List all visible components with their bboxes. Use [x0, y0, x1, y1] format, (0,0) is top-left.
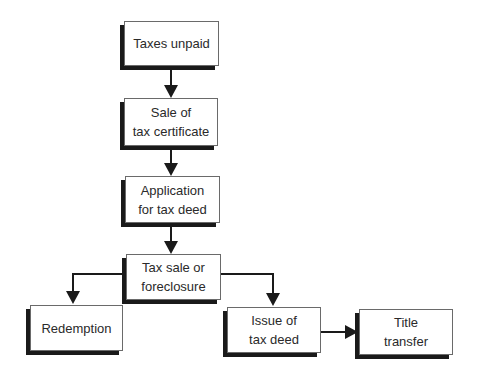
- node-sale-of-tax-certificate: Sale of tax certificate: [124, 98, 218, 146]
- node-issue-of-tax-deed: Issue of tax deed: [227, 307, 321, 353]
- arrowhead-down-icon: [66, 291, 80, 304]
- node-label: Title transfer: [384, 313, 428, 351]
- node-redemption: Redemption: [30, 305, 123, 351]
- node-label: Redemption: [41, 319, 111, 338]
- node-taxes-unpaid: Taxes unpaid: [124, 21, 219, 66]
- node-title-transfer: Title transfer: [359, 309, 453, 355]
- arrowhead-down-icon: [164, 85, 178, 98]
- arrowhead-down-icon: [164, 241, 178, 254]
- node-tax-sale-or-foreclosure: Tax sale or foreclosure: [126, 254, 221, 300]
- edge-taxsale-to-redemption: [73, 274, 126, 292]
- arrowhead-right-icon: [345, 325, 358, 339]
- edge-taxsale-to-issue: [221, 274, 273, 294]
- node-label: Sale of tax certificate: [133, 103, 210, 141]
- arrowhead-down-icon: [266, 293, 280, 306]
- node-label: Taxes unpaid: [133, 34, 210, 53]
- node-application-for-tax-deed: Application for tax deed: [125, 176, 220, 223]
- node-label: Issue of tax deed: [249, 311, 299, 349]
- node-label: Tax sale or foreclosure: [141, 258, 205, 296]
- node-label: Application for tax deed: [138, 181, 207, 219]
- arrowhead-down-icon: [164, 163, 178, 176]
